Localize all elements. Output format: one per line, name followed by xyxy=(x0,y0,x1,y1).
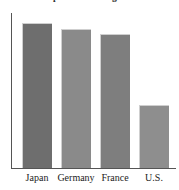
x-tick-label-germany: Germany xyxy=(57,171,96,185)
bar-france xyxy=(100,34,130,168)
bar-chart-figure: Comparative Savings Rates JapanGermanyFr… xyxy=(0,0,179,190)
x-tick-label-japan: Japan xyxy=(18,171,57,185)
bars-layer xyxy=(0,0,179,168)
x-axis-tick-labels: JapanGermanyFranceU.S. xyxy=(11,171,176,187)
x-axis-line xyxy=(11,168,176,169)
bar-germany xyxy=(61,29,91,168)
x-tick-label-france: France xyxy=(96,171,135,185)
x-tick-label-u-s: U.S. xyxy=(135,171,174,185)
bar-u-s xyxy=(139,105,169,168)
bar-japan xyxy=(22,23,52,168)
